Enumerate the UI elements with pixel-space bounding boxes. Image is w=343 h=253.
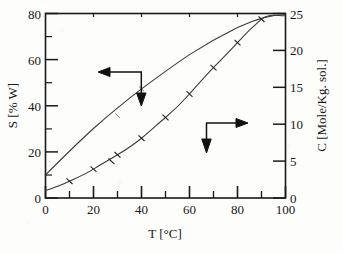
y-right-label-10: 10 xyxy=(290,117,303,132)
x-label-80: 80 xyxy=(231,202,244,217)
x-label-60: 60 xyxy=(183,202,196,217)
y-left-label-60: 60 xyxy=(28,53,41,68)
y-left-label-40: 40 xyxy=(28,99,41,114)
x-label-40: 40 xyxy=(135,202,148,217)
y-right-label-25: 25 xyxy=(290,7,303,22)
x-label-100: 100 xyxy=(276,202,296,217)
y-right-label-5: 5 xyxy=(290,154,297,169)
x-label-0: 0 xyxy=(42,202,49,217)
y-left-axis-title: S [% W] xyxy=(5,83,20,128)
x-axis-title: T [°C] xyxy=(148,226,181,241)
y-right-label-15: 15 xyxy=(290,80,303,95)
y-right-label-20: 20 xyxy=(290,43,303,58)
solubility-chart: 0 20 40 60 80 0 5 10 15 20 25 0 20 40 60… xyxy=(0,0,343,253)
y-left-label-20: 20 xyxy=(28,145,41,160)
y-right-axis-title: C [Mole/Kg. sol.] xyxy=(314,59,329,151)
x-label-20: 20 xyxy=(87,202,100,217)
y-left-label-80: 80 xyxy=(28,7,41,22)
y-left-label-0: 0 xyxy=(35,191,42,206)
